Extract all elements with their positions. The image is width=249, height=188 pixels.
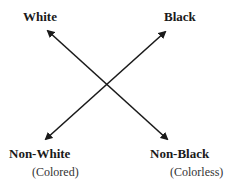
opposition-diagram: White Black Non-White (Colored) Non-Blac… xyxy=(0,0,249,188)
sublabel-colored: (Colored) xyxy=(32,166,79,179)
label-non-white: Non-White xyxy=(9,147,70,161)
label-white: White xyxy=(23,10,57,24)
sublabel-colorless: (Colorless) xyxy=(170,166,223,179)
label-black: Black xyxy=(164,10,196,24)
label-non-black: Non-Black xyxy=(150,147,209,161)
arrow-black-to-nonwhite xyxy=(46,32,165,139)
